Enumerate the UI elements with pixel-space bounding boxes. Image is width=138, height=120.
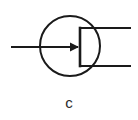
base-lead-arrow-icon [70,43,79,52]
figure-root: c [0,0,138,120]
figure-caption: c [0,94,138,112]
